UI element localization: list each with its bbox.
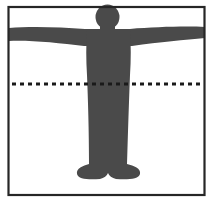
torso-and-legs <box>77 30 140 179</box>
human-silhouette <box>9 5 205 180</box>
diagram-canvas <box>0 0 211 202</box>
